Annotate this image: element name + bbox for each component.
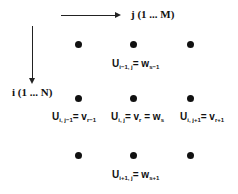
j-axis-arrow <box>61 15 117 16</box>
grid-node-r3-c1 <box>75 152 82 159</box>
grid-node-r1-c2 <box>130 41 137 48</box>
label-left-neighbor: Ui, j−1= vr−1 <box>52 111 96 123</box>
grid-node-r2-c3 <box>187 95 194 102</box>
grid-node-r2-c1 <box>75 95 82 102</box>
grid-node-r1-c3 <box>187 41 194 48</box>
i-axis-arrow <box>32 26 33 80</box>
grid-node-r3-c3 <box>187 152 194 159</box>
i-axis-label: i (1 ... N) <box>12 86 52 98</box>
j-axis-arrowhead-icon <box>115 12 121 18</box>
i-axis-arrowhead-icon <box>29 78 35 84</box>
grid-node-r2-c2 <box>130 95 137 102</box>
label-top-neighbor: Ui−1, j= ws−1 <box>112 58 159 70</box>
label-bottom-neighbor: Ui+1, j= ws+1 <box>112 169 159 181</box>
label-center-node: Ui, j= vr = ws <box>111 111 164 123</box>
label-right-neighbor: Ui, j+1= vr+1 <box>180 111 224 123</box>
grid-node-r3-c2 <box>130 152 137 159</box>
j-axis-label: j (1 ... M) <box>131 8 174 20</box>
grid-node-r1-c1 <box>75 41 82 48</box>
